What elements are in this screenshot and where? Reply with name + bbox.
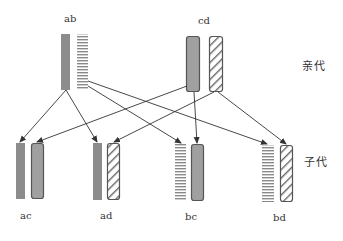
offspring-bd bbox=[262, 145, 293, 202]
parent-cd bbox=[187, 37, 223, 92]
parent-label-cd: cd bbox=[198, 15, 210, 26]
parent-label-ab: ab bbox=[64, 13, 76, 24]
chromosome-d bbox=[210, 37, 223, 92]
offspring-label-ad: ad bbox=[100, 210, 112, 221]
arrow-b-to-bc bbox=[88, 86, 181, 143]
chromosome-d bbox=[281, 146, 293, 202]
generation-label-offspring: 子代 bbox=[304, 153, 328, 169]
chromosome-b bbox=[77, 34, 88, 90]
chromosome-a bbox=[61, 34, 70, 90]
arrow-c-to-bc bbox=[194, 92, 197, 143]
chromosome-b bbox=[262, 145, 274, 202]
genetic-cross-diagram bbox=[0, 0, 343, 241]
chromosome-a bbox=[16, 143, 25, 199]
chromosome-c bbox=[32, 144, 44, 199]
arrow-d-to-bd bbox=[218, 92, 286, 144]
arrow-c-to-ac bbox=[37, 86, 187, 142]
parent-ab bbox=[61, 34, 88, 90]
chromosome-a bbox=[93, 143, 102, 200]
chromosome-c bbox=[192, 145, 204, 201]
offspring-ad bbox=[93, 143, 120, 200]
offspring-ac bbox=[16, 143, 44, 199]
chromosome-d bbox=[108, 144, 120, 200]
offspring-label-bc: bc bbox=[185, 211, 197, 222]
inheritance-arrows bbox=[20, 81, 286, 144]
chromosome-c bbox=[187, 37, 200, 92]
generation-label-parent: 亲代 bbox=[302, 57, 326, 73]
offspring-bc bbox=[175, 144, 204, 201]
offspring-label-ac: ac bbox=[20, 210, 32, 221]
arrow-a-to-ad bbox=[66, 90, 97, 142]
chromosome-b bbox=[175, 144, 186, 200]
offspring-label-bd: bd bbox=[273, 212, 286, 223]
arrow-d-to-ad bbox=[114, 92, 214, 142]
